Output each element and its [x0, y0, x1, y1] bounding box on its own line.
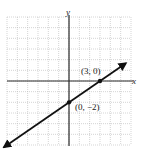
- x-axis-label: x: [131, 76, 136, 86]
- point-3-0: [98, 79, 102, 83]
- y-axis-label: y: [65, 7, 70, 17]
- coordinate-plane: y x (3, 0) (0, −2): [0, 0, 141, 153]
- point-0-neg2: [67, 100, 71, 104]
- point-b-label: (0, −2): [75, 102, 100, 112]
- point-a-label: (3, 0): [81, 66, 101, 76]
